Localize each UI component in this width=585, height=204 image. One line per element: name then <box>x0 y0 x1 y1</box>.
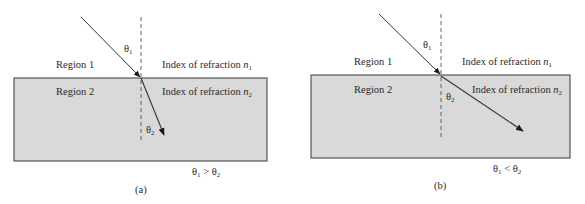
index-n1-label: Index of refraction n1 <box>462 56 553 69</box>
angle-relation: θ1 > θ2 <box>192 166 221 179</box>
index-n1-label: Index of refraction n1 <box>162 59 253 72</box>
theta1-label: θ1 <box>423 39 432 52</box>
caption-a: (a) <box>135 184 147 196</box>
region-2-label: Region 2 <box>56 86 94 97</box>
caption-b: (b) <box>434 180 447 192</box>
angle-relation: θ1 < θ2 <box>493 163 522 176</box>
region-1-label: Region 1 <box>56 59 94 70</box>
region-1-label: Region 1 <box>354 56 392 67</box>
panel-a: θ1 θ2 Region 1 Region 2 Index of refract… <box>14 17 267 196</box>
region-2-label: Region 2 <box>354 84 392 95</box>
refraction-diagram: θ1 θ2 Region 1 Region 2 Index of refract… <box>0 0 585 204</box>
panel-b: θ1 θ2 Region 1 Region 2 Index of refract… <box>311 14 570 192</box>
theta1-label: θ1 <box>124 43 133 56</box>
